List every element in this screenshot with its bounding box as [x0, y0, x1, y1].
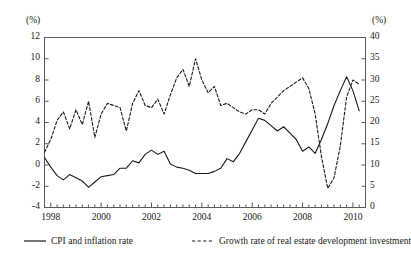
x-axis-tick-label: 2006: [232, 212, 272, 222]
left-axis-tick-label: 6: [14, 95, 40, 105]
left-axis-tick-label: -4: [14, 201, 40, 211]
series-line-real-estate: [45, 59, 360, 189]
x-axis-tick-label: 1998: [31, 212, 71, 222]
right-axis-tick-label: 25: [370, 95, 380, 105]
left-axis-tick-label: 10: [14, 52, 40, 62]
left-axis-tick-label: 2: [14, 137, 40, 147]
x-axis-tick-label: 2000: [81, 212, 121, 222]
series-line-cpi: [45, 77, 360, 188]
right-axis-tick-label: 20: [370, 116, 380, 126]
left-axis-tick-label: 8: [14, 74, 40, 84]
x-axis-tick-label: 2002: [132, 212, 172, 222]
legend-entry-real-estate: Growth rate of real estate development i…: [192, 235, 411, 247]
legend-label-real-estate: Growth rate of real estate development i…: [219, 235, 411, 247]
right-axis-tick-label: 5: [370, 180, 375, 190]
right-axis-tick-label: 30: [370, 74, 380, 84]
legend-dashed-line-icon: [192, 236, 214, 246]
right-axis-tick-label: 0: [370, 201, 375, 211]
x-axis-tick-label: 2008: [283, 212, 323, 222]
legend-label-cpi: CPI and inflation rate: [51, 235, 133, 247]
right-axis-tick-label: 10: [370, 159, 380, 169]
right-axis-tick-label: 40: [370, 31, 380, 41]
right-axis-tick-label: 35: [370, 52, 380, 62]
legend-entry-cpi: CPI and inflation rate: [24, 235, 133, 247]
right-axis-tick-label: 15: [370, 137, 380, 147]
data-series-group: [45, 59, 360, 189]
chart-legend: CPI and inflation rate Growth rate of re…: [0, 235, 406, 257]
x-axis-tick-label: 2004: [182, 212, 222, 222]
left-axis-tick-label: 4: [14, 116, 40, 126]
left-axis-tick-label: 12: [14, 31, 40, 41]
left-axis-tick-label: -2: [14, 180, 40, 190]
x-axis-tick-label: 2010: [333, 212, 373, 222]
left-axis-tick-label: 0: [14, 159, 40, 169]
legend-solid-line-icon: [24, 236, 46, 246]
